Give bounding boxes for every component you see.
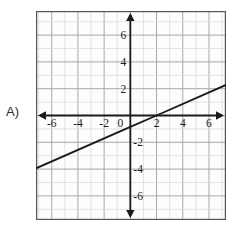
x-tick-label: -2 [99,117,109,129]
y-tick-label: 6 [121,29,127,41]
x-tick-label: 0 [118,117,124,129]
question-label: A) [6,104,19,119]
graph-figure: A) -6-4-20246-6-4-2246 [0,0,238,233]
x-tick-label: -4 [73,117,83,129]
y-tick-label: -6 [133,190,143,202]
y-tick-label: -4 [133,163,143,175]
y-tick-label: 4 [121,56,127,68]
y-tick-label: 2 [121,83,127,95]
x-tick-label: 6 [206,117,212,129]
x-tick-label: 2 [154,117,160,129]
coordinate-plane-svg: -6-4-20246-6-4-2246 [36,11,226,220]
x-tick-label: 4 [180,117,186,129]
x-tick-label: -6 [47,117,57,129]
coordinate-plane: -6-4-20246-6-4-2246 [36,11,226,220]
y-tick-label: -2 [133,136,143,148]
